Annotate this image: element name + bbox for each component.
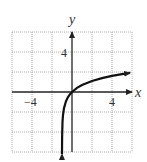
x-axis-label: x [134,85,142,100]
x-tick-4: 4 [109,95,115,109]
y-tick-4: 4 [61,46,67,60]
y-axis-label: y [67,12,76,27]
graph: x y −4 4 4 [0,0,147,162]
x-tick-neg4: −4 [24,95,37,109]
